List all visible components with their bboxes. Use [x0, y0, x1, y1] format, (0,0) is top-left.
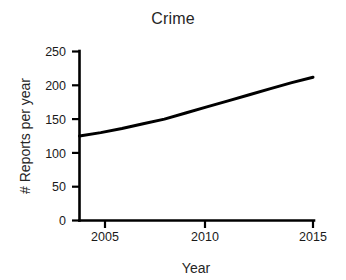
x-tick-label-2015: 2015 — [299, 230, 327, 244]
y-tick-label-50: 50 — [52, 180, 66, 194]
y-tick-label-200: 200 — [45, 79, 66, 93]
x-tick-label-2005: 2005 — [91, 230, 119, 244]
chart-figure: Crime # Reports per year Year 250 200 15… — [0, 0, 346, 280]
x-tick-label-2010: 2010 — [191, 230, 219, 244]
y-tick-label-0: 0 — [59, 214, 66, 228]
y-axis-title: # Reports per year — [17, 78, 33, 194]
data-series-line — [80, 77, 314, 136]
line-chart-plot: # Reports per year Year 250 200 150 100 … — [0, 0, 346, 280]
y-tick-label-100: 100 — [45, 147, 66, 161]
y-tick-label-150: 150 — [45, 113, 66, 127]
y-tick-label-250: 250 — [45, 45, 66, 59]
x-axis-title: Year — [182, 260, 211, 276]
